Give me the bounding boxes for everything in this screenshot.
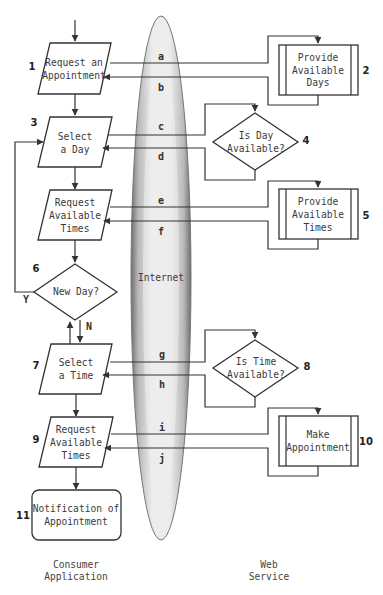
step-9-request-times: Request Available Times 9 <box>33 417 113 467</box>
svg-text:Appointment: Appointment <box>286 442 350 453</box>
svg-text:Notification of: Notification of <box>33 503 120 514</box>
svg-text:Available?: Available? <box>227 143 285 154</box>
svg-text:a Time: a Time <box>59 370 94 381</box>
svg-text:Appointment: Appointment <box>42 70 106 81</box>
svg-text:Times: Times <box>62 450 91 461</box>
svg-text:7: 7 <box>33 360 40 371</box>
svg-text:Provide: Provide <box>298 52 339 63</box>
svg-text:8: 8 <box>304 361 311 372</box>
svg-text:Available: Available <box>49 210 101 221</box>
svg-text:Available: Available <box>292 209 344 220</box>
consumer-caption-line1: Consumer <box>53 559 99 570</box>
service-caption-line1: Web <box>260 559 278 570</box>
svg-text:Appointment: Appointment <box>44 516 108 527</box>
message-h-label: h <box>159 379 165 390</box>
flowchart-canvas: Internet Request an Appointment 1 Select… <box>0 0 383 595</box>
branch-no-label: N <box>86 321 92 332</box>
svg-text:10: 10 <box>359 436 373 447</box>
service-caption-line2: Service <box>249 571 290 582</box>
svg-text:Times: Times <box>61 223 90 234</box>
step-7-select-time: Select a Time 7 <box>33 344 112 394</box>
message-i-label: i <box>159 422 165 433</box>
internet-label: Internet <box>138 272 184 283</box>
step-1-request-appointment: Request an Appointment 1 <box>29 43 111 94</box>
svg-text:4: 4 <box>303 135 310 146</box>
svg-text:2: 2 <box>363 65 370 76</box>
step-2-provide-days: Provide Available Days 2 <box>279 45 370 95</box>
message-f-label: f <box>158 226 164 237</box>
svg-text:5: 5 <box>363 210 370 221</box>
svg-text:Provide: Provide <box>298 196 339 207</box>
svg-text:11: 11 <box>16 510 30 521</box>
step-number: 1 <box>29 61 36 72</box>
svg-text:Request an: Request an <box>45 57 103 68</box>
svg-text:3: 3 <box>31 117 38 128</box>
svg-text:Select: Select <box>58 131 93 142</box>
svg-text:Make: Make <box>306 429 329 440</box>
step-10-make-appointment: Make Appointment 10 <box>279 416 373 466</box>
svg-text:Request: Request <box>55 197 95 208</box>
svg-text:6: 6 <box>33 263 40 274</box>
step-request-times-1: Request Available Times <box>38 190 112 240</box>
svg-text:Select: Select <box>59 357 94 368</box>
message-b-label: b <box>158 82 164 93</box>
consumer-caption-line2: Application <box>44 571 108 582</box>
message-a-label: a <box>158 51 164 62</box>
step-8-is-time-available: Is Time Available? 8 <box>213 340 311 397</box>
message-g-label: g <box>159 349 165 360</box>
svg-text:Request: Request <box>56 424 96 435</box>
branch-yes-label: Y <box>23 294 29 305</box>
message-c-label: c <box>158 121 164 132</box>
svg-text:Available: Available <box>50 437 102 448</box>
message-d-label: d <box>158 151 164 162</box>
svg-text:Is Time: Is Time <box>236 356 277 367</box>
svg-text:Available: Available <box>292 65 344 76</box>
step-4-is-day-available: Is Day Available? 4 <box>213 113 310 170</box>
svg-text:Days: Days <box>306 77 329 88</box>
step-5-provide-times: Provide Available Times 5 <box>279 189 370 239</box>
svg-text:Is Day: Is Day <box>239 130 274 141</box>
message-e-label: e <box>158 195 164 206</box>
step-11-notification: Notification of Appointment 11 <box>16 490 121 540</box>
message-j-label: j <box>159 453 165 464</box>
svg-text:Available?: Available? <box>227 369 285 380</box>
svg-text:a Day: a Day <box>61 144 90 155</box>
svg-text:New Day?: New Day? <box>53 286 99 297</box>
step-6-new-day-decision: New Day? 6 <box>33 263 117 320</box>
svg-text:9: 9 <box>33 434 40 445</box>
svg-text:Times: Times <box>304 222 333 233</box>
